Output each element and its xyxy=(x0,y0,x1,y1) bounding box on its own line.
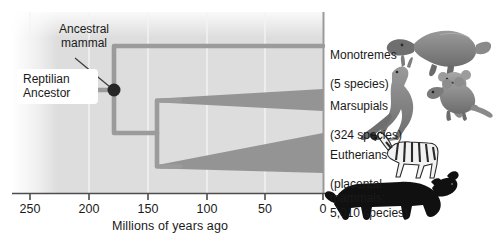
clade-label-eutherians: Eutherians (placental mammals; 5,010 spe… xyxy=(330,133,408,235)
x-tick-label-200: 200 xyxy=(69,202,109,216)
clade-name-monotremes: Monotremes xyxy=(330,48,397,63)
clade-name-eutherians: Eutherians xyxy=(330,148,408,163)
phylogenetic-tree-figure: 250 200 150 100 50 0 Millions of years a… xyxy=(0,0,493,242)
x-tick-label-250: 250 xyxy=(10,202,50,216)
x-axis-title: Millions of years ago xyxy=(0,219,340,233)
x-tick-label-100: 100 xyxy=(187,202,227,216)
x-tick-label-150: 150 xyxy=(128,202,168,216)
clade-count-eutherians: (placental mammals; 5,010 species) xyxy=(330,177,408,221)
reptilian-ancestor-callout: Reptilian Ancestor xyxy=(17,69,98,104)
clade-name-marsupials: Marsupials xyxy=(330,99,402,114)
x-tick-label-50: 50 xyxy=(245,202,285,216)
ancestral-mammal-label: Ancestral mammal xyxy=(36,22,132,50)
